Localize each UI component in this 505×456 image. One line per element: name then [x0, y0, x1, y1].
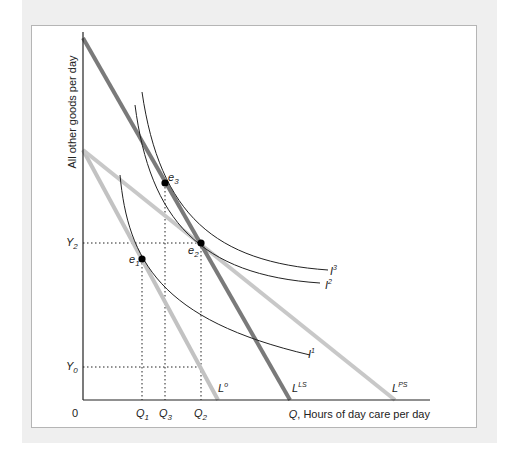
origin-label: 0 [72, 407, 78, 419]
economics-diagram: All other goods per day Q, Hours of day … [0, 0, 505, 456]
equilibrium-point-e2 [197, 239, 204, 246]
label-i2: I2 [325, 278, 332, 291]
indifference-curve-i2 [135, 105, 320, 283]
label-lps: LPS [392, 381, 408, 394]
budget-line-lps [83, 150, 395, 400]
label-i3: I3 [330, 264, 337, 277]
tick-q1: Q1 [136, 407, 149, 422]
tick-y0: Y0 [66, 360, 78, 375]
tick-y2: Y2 [66, 236, 78, 251]
x-axis-label: Q, Hours of day care per day [289, 408, 431, 420]
label-lls: LLS [292, 381, 307, 394]
tick-q3: Q3 [159, 407, 173, 422]
budget-line-lo [83, 150, 218, 400]
label-e2: e2 [188, 244, 199, 259]
y-axis-label: All other goods per day [66, 55, 78, 169]
label-i1: I1 [308, 347, 315, 360]
tick-q2: Q2 [194, 407, 208, 422]
label-lo: Lo [218, 381, 228, 394]
